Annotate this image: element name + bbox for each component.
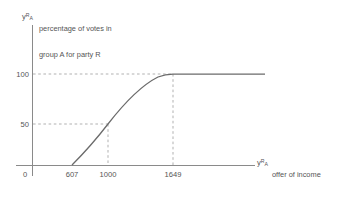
y-tick-label-50: 50 [21,120,29,129]
x-tick-label-607: 607 [66,170,79,179]
x-tick-label-1000: 1000 [100,170,117,179]
vote-response-curve [72,74,265,165]
x-axis-symbol: yRA [257,158,268,167]
y-axis-symbol: yRA [22,12,33,21]
y-axis-label: percentage of votes in group A for party… [39,8,112,77]
x-axis-label: offer of income by party R to group A [272,154,321,198]
y-axis-label-line-1: percentage of votes in [39,25,112,34]
x-axis-symbol-subscript: A [265,161,268,167]
x-tick-label-1649: 1649 [165,170,182,179]
y-tick-label-100: 100 [16,70,29,79]
x-tick-label-0: 0 [23,170,27,179]
x-axis-label-line-2: by party R [272,197,321,198]
x-axis-label-line-1: offer of income [272,171,321,180]
y-axis-symbol-subscript: A [30,15,33,21]
chart-figure: 100 50 0 607 1000 1649 yRA percentage of… [0,0,340,198]
y-axis-label-line-2: group A for party R [39,51,112,60]
